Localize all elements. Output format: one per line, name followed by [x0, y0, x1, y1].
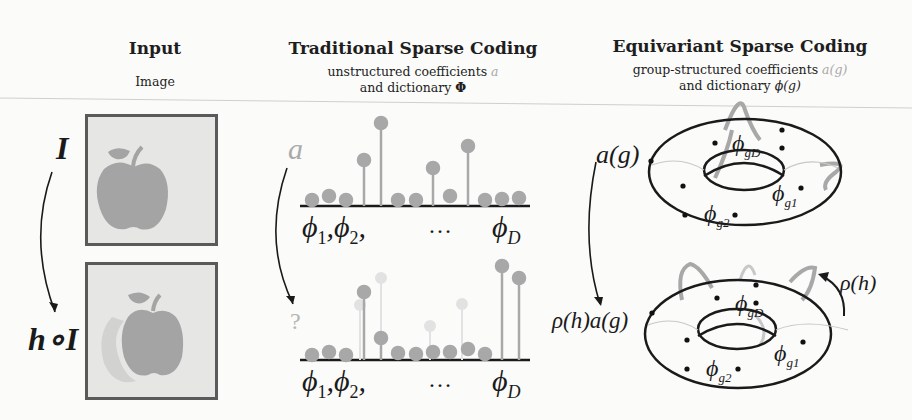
dict-label-g2-bottom: ϕg2: [706, 355, 731, 386]
dict-label-g1-bottom: ϕg1: [774, 340, 799, 371]
top-torus: [648, 103, 841, 225]
dict-label-gD-bottom: ϕgD: [735, 290, 763, 321]
action-label-rho-h: ρ(h): [840, 270, 876, 296]
dict-label-g1-top: ϕg1: [772, 180, 797, 211]
coeff-label-rho-ag: ρ(h)a(g): [552, 308, 628, 334]
bottom-torus: [645, 264, 848, 388]
coeff-label-ag: a(g): [596, 140, 639, 170]
dict-label-gD-top: ϕgD: [732, 130, 760, 161]
dict-label-g2-top: ϕg2: [704, 200, 729, 231]
